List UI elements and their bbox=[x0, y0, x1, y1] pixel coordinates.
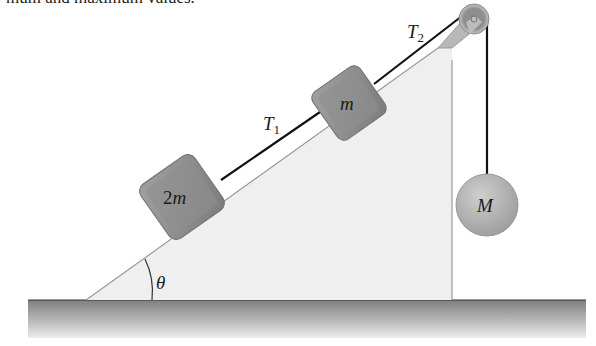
tension-t2-label: T2 bbox=[407, 21, 424, 45]
tension-t1-label: T1 bbox=[263, 113, 280, 137]
block-m-label: m bbox=[340, 93, 354, 114]
incline-pulley-diagram: 2m m M T1 T2 θ bbox=[0, 0, 596, 346]
pulley bbox=[459, 4, 489, 34]
ground bbox=[28, 300, 586, 338]
block-2m-label: 2m bbox=[163, 187, 186, 208]
angle-theta-label: θ bbox=[156, 272, 165, 293]
incline-wedge bbox=[86, 48, 452, 300]
hanging-mass-label: M bbox=[476, 195, 494, 216]
